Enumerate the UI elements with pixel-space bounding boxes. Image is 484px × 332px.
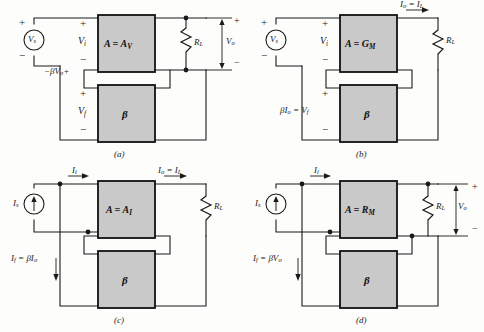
resistor-rl-a bbox=[181, 28, 191, 52]
output-plus-sign-a: + bbox=[234, 16, 240, 26]
feedback-block-label-d: β bbox=[364, 275, 370, 286]
panel-a: A = AV β + − Vs + Vi − −βVo+ + Vf − RL V… bbox=[0, 0, 242, 166]
feedback-plus-sign-a: + bbox=[80, 88, 86, 99]
source-label-d: Is bbox=[255, 199, 261, 209]
arrow-head bbox=[453, 185, 458, 191]
input-plus-sign-b: + bbox=[322, 18, 328, 29]
arrow-head bbox=[53, 274, 58, 281]
output-current-label-b: Io = IL bbox=[400, 0, 423, 10]
output-label-d: Vo bbox=[458, 202, 467, 212]
arrow-head bbox=[273, 196, 278, 202]
source-plus-sign-a: + bbox=[19, 17, 25, 28]
panel-d-schematic bbox=[242, 166, 484, 332]
arrow-head bbox=[219, 19, 224, 25]
arrow-head bbox=[453, 229, 458, 235]
input-current-label-d: Ii bbox=[314, 166, 319, 176]
panel-b-schematic bbox=[242, 0, 484, 166]
input-current-label-c: Ii bbox=[72, 166, 77, 176]
input-port-label-b: Vi bbox=[320, 36, 328, 48]
feedback-block-label-b: β bbox=[364, 109, 370, 120]
output-minus-sign-a: − bbox=[234, 58, 240, 68]
feedback-minus-sign-b: − bbox=[322, 124, 328, 135]
source-label-a: Vs bbox=[28, 35, 36, 45]
load-label-b: RL bbox=[446, 36, 455, 46]
feedback-plus-sign-b: + bbox=[322, 88, 328, 99]
load-label-c: RL bbox=[214, 202, 223, 212]
output-minus-sign-d: − bbox=[472, 224, 478, 234]
feedback-block-label-c: β bbox=[122, 275, 128, 286]
panel-caption-c: (c) bbox=[114, 316, 124, 325]
amplifier-block-label-b: A = GM bbox=[345, 39, 375, 51]
arrow-head bbox=[219, 63, 224, 69]
input-port-label-a: Vi bbox=[78, 36, 86, 48]
node-dot bbox=[86, 230, 91, 235]
feedback-port-label-a: Vf bbox=[78, 106, 86, 118]
load-label-d: RL bbox=[436, 202, 445, 212]
node-dot bbox=[58, 182, 63, 187]
feedback-signal-label-d: If = βVo bbox=[253, 254, 282, 264]
node-dot bbox=[184, 16, 189, 21]
feedback-signal-label-b: βIo = Vf bbox=[280, 106, 309, 116]
output-current-label-c: Io = IL bbox=[158, 166, 181, 176]
input-plus-sign-a: + bbox=[80, 18, 86, 29]
figure-root: A = AV β + − Vs + Vi − −βVo+ + Vf − RL V… bbox=[0, 0, 484, 332]
panel-caption-b: (b) bbox=[356, 150, 367, 159]
node-dot bbox=[426, 182, 431, 187]
panel-b: A = GM β + − Vs + Vi − + − βIo = Vf RL I… bbox=[242, 0, 484, 166]
feedback-signal-label-c: If = βIo bbox=[11, 254, 37, 264]
node-dot bbox=[328, 230, 333, 235]
node-dot bbox=[410, 234, 415, 239]
arrow-head bbox=[295, 274, 300, 281]
input-minus-sign-a: − bbox=[80, 54, 86, 65]
resistor-rl-c bbox=[201, 196, 211, 220]
feedback-minus-sign-a: − bbox=[80, 124, 86, 135]
source-label-c: Is bbox=[13, 199, 19, 209]
feedback-block-label-a: β bbox=[122, 109, 128, 120]
resistor-rl-d bbox=[423, 196, 433, 220]
amplifier-block-label-a: A = AV bbox=[104, 39, 132, 51]
source-minus-sign-b: − bbox=[261, 50, 267, 61]
arrow-head bbox=[324, 173, 331, 179]
panel-caption-d: (d) bbox=[356, 316, 367, 325]
source-plus-sign-b: + bbox=[261, 17, 267, 28]
panel-c-schematic bbox=[0, 166, 242, 332]
amplifier-block-label-d: A = RM bbox=[345, 205, 375, 217]
output-plus-sign-d: + bbox=[472, 182, 478, 192]
arrow-head bbox=[31, 196, 36, 202]
node-dot bbox=[300, 182, 305, 187]
resistor-rl-b bbox=[433, 30, 443, 54]
panel-c: A = AI β Is Ii Io = IL If = βIo RL (c) bbox=[0, 166, 242, 332]
panel-d: A = RM β Is Ii If = βVo RL Vo + − (d) bbox=[242, 166, 484, 332]
load-label-a: RL bbox=[194, 38, 203, 48]
arrow-head bbox=[82, 173, 89, 179]
panel-caption-a: (a) bbox=[114, 150, 125, 159]
node-dot bbox=[184, 68, 189, 73]
output-label-a: Vo bbox=[226, 37, 235, 47]
amplifier-block-label-c: A = AI bbox=[106, 205, 132, 217]
source-minus-sign-a: − bbox=[19, 50, 25, 61]
feedback-signal-label-a: −βVo+ bbox=[44, 67, 69, 77]
panel-a-schematic bbox=[0, 0, 242, 166]
source-label-b: Vs bbox=[270, 35, 278, 45]
input-minus-sign-b: − bbox=[322, 54, 328, 65]
